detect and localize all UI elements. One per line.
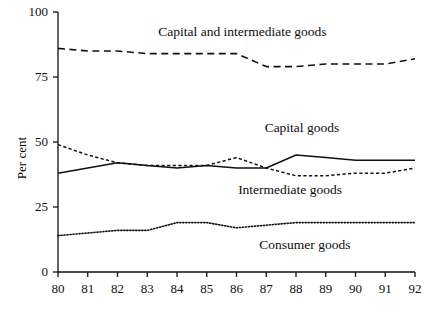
x-tick-label: 91 bbox=[379, 281, 392, 297]
series-annotation-label: Capital and intermediate goods bbox=[158, 24, 326, 40]
axis-lines bbox=[58, 12, 415, 272]
x-tick-label: 87 bbox=[260, 281, 273, 297]
x-tick-label: 88 bbox=[290, 281, 303, 297]
y-tick-label: 25 bbox=[0, 199, 48, 215]
chart-figure: Per cent 0255075100 80818283848586878889… bbox=[0, 0, 428, 313]
x-tick-label: 82 bbox=[111, 281, 124, 297]
x-tick-label: 84 bbox=[171, 281, 184, 297]
y-axis-ticks bbox=[53, 12, 58, 272]
data-series-group bbox=[58, 48, 415, 235]
x-tick-label: 81 bbox=[81, 281, 94, 297]
x-tick-label: 92 bbox=[409, 281, 422, 297]
y-axis-title: Per cent bbox=[14, 118, 30, 198]
series-annotation-label: Capital goods bbox=[265, 120, 340, 136]
series-annotation-label: Consumer goods bbox=[259, 237, 350, 253]
x-tick-label: 85 bbox=[200, 281, 213, 297]
series-line bbox=[58, 223, 415, 236]
x-axis-ticks bbox=[58, 272, 415, 277]
series-annotation-label: Intermediate goods bbox=[238, 182, 342, 198]
y-tick-label: 0 bbox=[0, 264, 48, 280]
y-tick-label: 100 bbox=[0, 4, 48, 20]
x-tick-label: 83 bbox=[141, 281, 154, 297]
chart-plot-area bbox=[0, 0, 428, 313]
series-line bbox=[58, 48, 415, 66]
x-tick-label: 89 bbox=[319, 281, 332, 297]
y-tick-label: 50 bbox=[0, 134, 48, 150]
x-tick-label: 80 bbox=[52, 281, 65, 297]
y-tick-label: 75 bbox=[0, 69, 48, 85]
x-tick-label: 90 bbox=[349, 281, 362, 297]
x-tick-label: 86 bbox=[230, 281, 243, 297]
